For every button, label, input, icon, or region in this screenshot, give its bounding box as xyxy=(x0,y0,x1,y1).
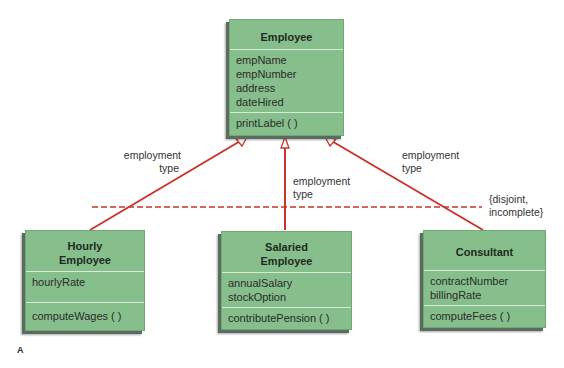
operation: computeFees ( ) xyxy=(430,309,539,323)
operation: contributePension ( ) xyxy=(228,311,345,325)
discriminator-label-middle: employment type xyxy=(293,175,350,201)
arrowhead-icon xyxy=(281,137,289,148)
operations-section: computeFees ( ) xyxy=(424,305,545,327)
attribute: empNumber xyxy=(236,67,337,81)
operation: computeWages ( ) xyxy=(32,309,138,323)
attribute: stockOption xyxy=(228,290,345,304)
attribute: dateHired xyxy=(236,95,337,109)
class-name: Salaried Employee xyxy=(222,232,351,272)
attribute: annualSalary xyxy=(228,276,345,290)
attribute: address xyxy=(236,81,337,95)
class-name: Consultant xyxy=(424,231,545,270)
arrowhead-icon xyxy=(236,137,247,146)
attribute: billingRate xyxy=(430,288,539,302)
arrowhead-icon xyxy=(325,137,336,146)
class-employee[interactable]: Employee empName empNumber address dateH… xyxy=(229,19,344,136)
class-name: Employee xyxy=(230,20,343,49)
operation: printLabel ( ) xyxy=(236,116,337,130)
operations-section: contributePension ( ) xyxy=(222,307,351,329)
discriminator-label-right: employment type xyxy=(402,149,459,175)
attributes-section: hourlyRate xyxy=(26,271,144,302)
operations-section: printLabel ( ) xyxy=(230,112,343,135)
attributes-section: contractNumber billingRate xyxy=(424,270,545,305)
attributes-section: annualSalary stockOption xyxy=(222,272,351,307)
attribute: contractNumber xyxy=(430,274,539,288)
constraint-label: {disjoint, incomplete} xyxy=(489,193,543,219)
class-salaried-employee[interactable]: Salaried Employee annualSalary stockOpti… xyxy=(221,231,352,330)
attribute: empName xyxy=(236,53,337,67)
class-consultant[interactable]: Consultant contractNumber billingRate co… xyxy=(423,230,546,328)
attribute: hourlyRate xyxy=(32,275,138,289)
class-hourly-employee[interactable]: Hourly Employee hourlyRate computeWages … xyxy=(25,230,145,331)
discriminator-label-left: employment type xyxy=(123,149,181,175)
figure-label: A xyxy=(17,345,24,355)
operations-section: computeWages ( ) xyxy=(26,302,144,326)
attributes-section: empName empNumber address dateHired xyxy=(230,49,343,112)
class-name: Hourly Employee xyxy=(26,231,144,271)
